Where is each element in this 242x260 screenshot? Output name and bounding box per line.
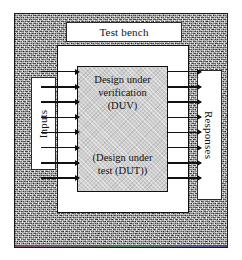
duv-primary-text: Design under verification (DUV) <box>82 74 163 112</box>
duv-line-3: (DUV) <box>82 100 163 113</box>
dut-line-1: (Design under <box>82 152 163 165</box>
bottom-color-fringe <box>15 245 227 247</box>
response-arrow <box>167 132 201 133</box>
response-arrow <box>167 117 201 118</box>
response-arrow <box>167 71 201 72</box>
inputs-label: Inputs <box>38 109 50 138</box>
inputs-label-box: Inputs <box>31 77 56 170</box>
response-arrow <box>167 147 201 148</box>
input-arrow <box>41 71 79 72</box>
input-arrow <box>41 132 79 133</box>
dut-line-2: test (DUT)) <box>82 165 163 178</box>
input-arrow <box>41 101 79 102</box>
input-arrow <box>41 117 79 118</box>
duv-line-2: verification <box>82 87 163 100</box>
response-arrow <box>167 101 201 102</box>
input-arrow <box>41 177 79 178</box>
test-bench-title-chip: Test bench <box>66 22 182 42</box>
input-arrow <box>41 147 79 148</box>
response-arrow <box>167 177 201 178</box>
input-arrow <box>41 162 79 163</box>
response-arrow <box>167 162 201 163</box>
response-arrow <box>167 86 201 87</box>
design-under-verification-box: Design under verification (DUV) (Design … <box>77 66 168 192</box>
test-bench-title-label: Test bench <box>99 26 148 38</box>
input-arrow <box>41 86 79 87</box>
responses-label: Responses <box>204 111 216 159</box>
diagram-canvas: Test bench Design under verification (DU… <box>0 0 242 260</box>
duv-line-1: Design under <box>82 74 163 87</box>
dut-alternate-text: (Design under test (DUT)) <box>82 152 163 178</box>
